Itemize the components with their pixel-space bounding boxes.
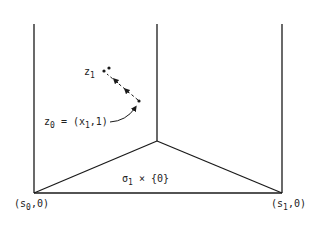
z1-label: z1	[84, 66, 95, 80]
s0-label: (s0,0)	[14, 198, 49, 212]
z1-point-b	[107, 66, 110, 69]
dashed-path	[107, 74, 138, 100]
z0-pointer-curve	[110, 108, 135, 122]
diagram-canvas: z1 z0 = (x1,1) σ1 × {0} (s0,0) (s1,0)	[0, 0, 320, 228]
triangle-left-edge	[34, 141, 157, 193]
s1-label: (s1,0)	[271, 198, 306, 212]
z0-label: z0 = (x1,1)	[44, 116, 108, 130]
triangle-right-edge	[157, 141, 282, 193]
sigma-label: σ1 × {0}	[122, 173, 169, 187]
z1-point-a	[102, 69, 105, 72]
